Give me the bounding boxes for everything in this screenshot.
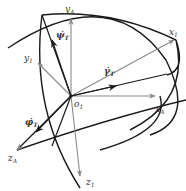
y-1-label: y1 bbox=[23, 53, 33, 64]
x-1-axis bbox=[71, 40, 174, 96]
x-1-label: x1 bbox=[169, 27, 178, 38]
origin-label: o1 bbox=[74, 99, 83, 110]
big-meridian-arc bbox=[8, 17, 178, 135]
z-a-label: zA bbox=[7, 153, 18, 164]
gamma-rate-label: γ̇T bbox=[104, 66, 115, 77]
psi-rate-vector bbox=[52, 40, 71, 96]
y-a-label: yA bbox=[64, 4, 75, 15]
phi-rate-vector bbox=[36, 96, 71, 132]
origin-point bbox=[69, 94, 72, 97]
gamma-rate-vector bbox=[71, 86, 116, 96]
psi-rate-label: ψ̇T bbox=[56, 30, 69, 41]
frame-rotation-diagram: yA xA zA x1 y1 z1 o1 ψ̇T γ̇T φ̇T bbox=[0, 0, 186, 191]
origin-to-lower-arc-line bbox=[52, 96, 71, 146]
equator-arc bbox=[100, 96, 161, 150]
z-1-label: z1 bbox=[85, 177, 95, 188]
phi-rate-label: φ̇T bbox=[25, 117, 38, 128]
right-arc bbox=[130, 40, 179, 130]
